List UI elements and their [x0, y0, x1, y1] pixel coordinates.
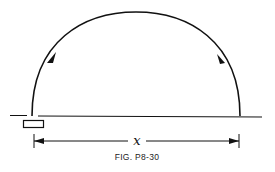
launcher [24, 121, 44, 128]
ground-line [10, 116, 262, 118]
trajectory-arc [32, 12, 240, 116]
dimension-label: x [133, 133, 141, 148]
projectile-diagram: x FIG. P8-30 [0, 0, 275, 172]
figure-caption: FIG. P8-30 [115, 152, 160, 162]
